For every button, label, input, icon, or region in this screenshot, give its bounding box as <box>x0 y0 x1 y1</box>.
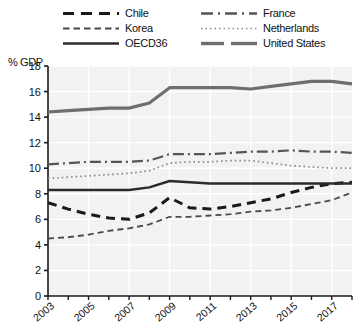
plot-background <box>48 66 352 296</box>
x-tick-label: 2013 <box>233 299 259 323</box>
x-tick-label: 2005 <box>71 299 97 323</box>
solid-thick-gray-swatch-icon <box>200 38 258 49</box>
x-tick-label: 2009 <box>152 299 178 323</box>
legend-label-chile: Chile <box>125 8 149 19</box>
legend-label-france: France <box>263 8 295 19</box>
chart-legend: Chile France Korea N <box>62 6 352 52</box>
legend-label-oecd36: OECD36 <box>125 38 167 49</box>
plot-area: 0246810121416182003200520072009201120132… <box>0 52 359 335</box>
legend-item-france[interactable]: France <box>200 6 352 21</box>
x-tick-label: 2017 <box>314 299 340 323</box>
y-tick-label: 16 <box>29 86 41 98</box>
legend-item-oecd36[interactable]: OECD36 <box>62 36 200 51</box>
y-tick-label: 6 <box>35 213 41 225</box>
health-expenditure-line-chart: Chile France Korea N <box>0 0 359 335</box>
legend-item-korea[interactable]: Korea <box>62 21 200 36</box>
legend-label-korea: Korea <box>125 23 153 34</box>
dashed-thick-swatch-icon <box>62 8 120 19</box>
y-tick-label: 14 <box>29 111 41 123</box>
legend-item-netherlands[interactable]: Netherlands <box>200 21 352 36</box>
dotted-swatch-icon <box>200 23 258 34</box>
x-tick-label: 2015 <box>274 299 300 323</box>
dashed-thin-swatch-icon <box>62 23 120 34</box>
solid-dark-swatch-icon <box>62 38 120 49</box>
y-tick-label: 8 <box>35 188 41 200</box>
y-tick-label: 12 <box>29 137 41 149</box>
legend-label-united-states: United States <box>263 38 325 49</box>
y-tick-label: 4 <box>35 239 41 251</box>
y-tick-label: 2 <box>35 264 41 276</box>
y-tick-label: 0 <box>35 290 41 302</box>
y-tick-label: 10 <box>29 162 41 174</box>
x-tick-label: 2011 <box>193 299 218 323</box>
dashdot-swatch-icon <box>200 8 258 19</box>
legend-label-netherlands: Netherlands <box>263 23 319 34</box>
x-tick-label: 2007 <box>112 299 138 323</box>
legend-item-chile[interactable]: Chile <box>62 6 200 21</box>
y-tick-label: 18 <box>29 60 41 72</box>
x-tick-label: 2003 <box>31 299 57 323</box>
legend-item-united-states[interactable]: United States <box>200 36 352 51</box>
